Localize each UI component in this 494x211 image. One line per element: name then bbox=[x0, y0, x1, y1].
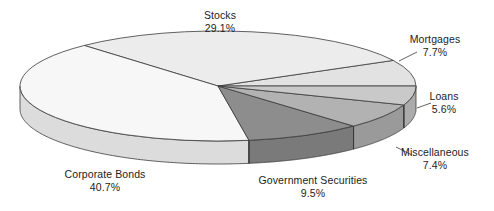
slice-label-government-securities-percent: 9.5% bbox=[238, 187, 388, 200]
slice-label-corporate-bonds: Corporate Bonds 40.7% bbox=[35, 168, 175, 193]
slice-label-government-securities-name: Government Securities bbox=[238, 174, 388, 187]
slice-label-loans: Loans 5.6% bbox=[403, 90, 485, 115]
slice-label-stocks-percent: 29.1% bbox=[165, 22, 275, 35]
slice-label-government-securities: Government Securities 9.5% bbox=[238, 174, 388, 199]
slice-label-corporate-bonds-name: Corporate Bonds bbox=[35, 168, 175, 181]
slice-label-miscellaneous: Miscellaneous 7.4% bbox=[382, 146, 488, 171]
slice-label-mortgages: Mortgages 7.7% bbox=[385, 33, 485, 58]
slice-label-mortgages-name: Mortgages bbox=[385, 33, 485, 46]
slice-label-miscellaneous-name: Miscellaneous bbox=[382, 146, 488, 159]
slice-label-loans-percent: 5.6% bbox=[403, 103, 485, 116]
slice-label-stocks-name: Stocks bbox=[165, 9, 275, 22]
slice-label-corporate-bonds-percent: 40.7% bbox=[35, 181, 175, 194]
slice-label-stocks: Stocks 29.1% bbox=[165, 9, 275, 34]
slice-label-miscellaneous-percent: 7.4% bbox=[382, 159, 488, 172]
slice-label-loans-name: Loans bbox=[403, 90, 485, 103]
pie-chart: Stocks 29.1% Mortgages 7.7% Loans 5.6% M… bbox=[0, 0, 494, 211]
slice-label-mortgages-percent: 7.7% bbox=[385, 46, 485, 59]
